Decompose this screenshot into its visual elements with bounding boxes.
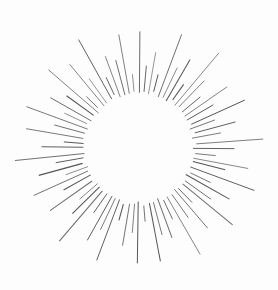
sunburst-ray: [42, 147, 84, 148]
artboard: Sunburst Ray Starburst: [0, 0, 278, 290]
sunburst-illustration: [0, 0, 278, 290]
background: [0, 0, 278, 290]
